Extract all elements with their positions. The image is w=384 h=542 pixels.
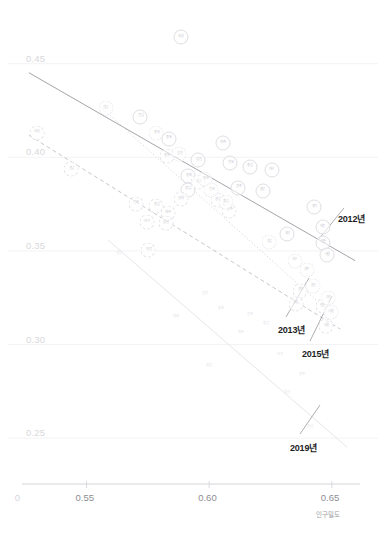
population-density-scatter-chart: 세종전남충북제주강원전북충남대구경북경남광주울산경기대전부산인천서울세종전남충북… bbox=[0, 0, 384, 542]
x-tick-label: 0.60 bbox=[198, 492, 217, 503]
plot-area: 세종전남충북제주강원전북충남대구경북경남광주울산경기대전부산인천서울세종전남충북… bbox=[0, 0, 384, 542]
annotation-2012년: 2012년 bbox=[338, 212, 365, 225]
x-tick-label: 0 bbox=[15, 492, 20, 503]
annotation-2013년: 2013년 bbox=[278, 323, 305, 336]
x-tick-label: 0.55 bbox=[76, 492, 95, 503]
annotation-2019년: 2019년 bbox=[290, 441, 317, 454]
x-axis-line bbox=[0, 0, 384, 542]
annotation-2015년: 2015년 bbox=[302, 347, 329, 360]
x-tick-label: 0.65 bbox=[321, 492, 340, 503]
x-axis-title: 인구밀도 bbox=[316, 509, 340, 519]
